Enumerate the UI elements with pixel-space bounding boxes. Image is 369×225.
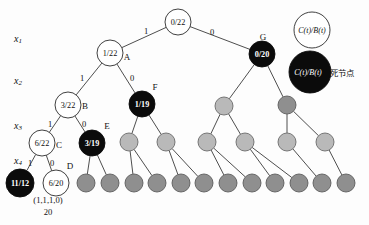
axis-sub-1: 1 bbox=[18, 37, 22, 45]
tree-node-G[interactable]: 0/20 bbox=[249, 41, 275, 67]
edge-g2a-g3c bbox=[211, 114, 220, 134]
tree-node-g3c[interactable] bbox=[198, 133, 216, 151]
edge-label-root-G: 0 bbox=[210, 27, 214, 37]
node-circle-l1[interactable] bbox=[77, 174, 95, 192]
tree-node-B[interactable]: 3/22 bbox=[55, 92, 81, 118]
node-circle-l8[interactable] bbox=[243, 174, 261, 192]
tree-node-A[interactable]: 1/22 bbox=[97, 40, 123, 66]
edge-label-C-H: 1 bbox=[28, 158, 32, 168]
node-circle-g3a[interactable] bbox=[120, 133, 138, 151]
node-circle-l2[interactable] bbox=[101, 174, 119, 192]
search-tree-diagram: 10101010 0/221/220/203/221/196/223/1911/… bbox=[0, 0, 369, 225]
edge-E-l2 bbox=[97, 155, 106, 175]
tree-node-C[interactable]: 6/22 bbox=[29, 130, 55, 156]
tree-node-D[interactable]: 6/20 bbox=[43, 170, 69, 196]
edge-g3e-l11 bbox=[293, 149, 316, 176]
node-circle-g2b[interactable] bbox=[278, 96, 296, 114]
node-circle-l12[interactable] bbox=[337, 174, 355, 192]
node-circle-g3d[interactable] bbox=[236, 133, 254, 151]
edge-g3d-l10 bbox=[252, 147, 292, 177]
legend-layer: C(t)/B(t)C(t)/B(t)死节点 bbox=[289, 12, 354, 93]
axis-label-x1: x1 bbox=[13, 33, 22, 45]
node-tag-G: G bbox=[260, 32, 267, 42]
node-label-A: 1/22 bbox=[103, 49, 118, 58]
edge-label-B-E: 0 bbox=[82, 119, 86, 129]
node-label-H: 11/12 bbox=[11, 179, 29, 188]
tree-node-l11[interactable] bbox=[313, 174, 331, 192]
edge-g3a-l4 bbox=[134, 149, 152, 175]
tree-node-F[interactable]: 1/19 bbox=[129, 91, 155, 117]
edge-label-A-B: 1 bbox=[80, 73, 84, 83]
caption-layer: (1,1,1,0)20 bbox=[33, 195, 62, 217]
node-label-C: 6/22 bbox=[35, 139, 50, 148]
edge-F-g3a bbox=[132, 116, 138, 133]
tree-node-g3d[interactable] bbox=[236, 133, 254, 151]
tree-node-l1[interactable] bbox=[77, 174, 95, 192]
tree-node-E[interactable]: 3/19 bbox=[79, 130, 105, 156]
edge-root-G bbox=[190, 27, 250, 50]
axis-sub-4: 4 bbox=[18, 159, 22, 167]
node-circle-l5[interactable] bbox=[172, 174, 190, 192]
caption-line-1: 20 bbox=[44, 207, 53, 217]
edge-g2b-g3f bbox=[293, 111, 318, 135]
node-circle-l10[interactable] bbox=[290, 174, 308, 192]
node-label-F: 1/19 bbox=[135, 100, 150, 109]
tree-node-g2a[interactable] bbox=[215, 97, 233, 115]
tree-node-g2b[interactable] bbox=[278, 96, 296, 114]
edge-g3a-l3 bbox=[130, 151, 133, 174]
tree-node-l3[interactable] bbox=[125, 174, 143, 192]
legend-dead-node-suffix: 死节点 bbox=[330, 68, 354, 78]
legend-live-node-label: C(t)/B(t) bbox=[298, 26, 326, 35]
node-circle-g3f[interactable] bbox=[316, 133, 334, 151]
edge-g3c-l8 bbox=[214, 148, 246, 177]
node-tag-A: A bbox=[124, 52, 131, 62]
edge-G-g2a bbox=[229, 64, 254, 98]
node-circle-g3c[interactable] bbox=[198, 133, 216, 151]
tree-node-g3e[interactable] bbox=[278, 133, 296, 151]
tree-node-l7[interactable] bbox=[219, 174, 237, 192]
tree-node-l10[interactable] bbox=[290, 174, 308, 192]
axis-label-layer: x1x2x3x4 bbox=[13, 33, 22, 167]
node-circle-l3[interactable] bbox=[125, 174, 143, 192]
node-tag-B: B bbox=[82, 101, 88, 111]
tree-node-l8[interactable] bbox=[243, 174, 261, 192]
node-circle-l11[interactable] bbox=[313, 174, 331, 192]
legend-dead-node: C(t)/B(t)死节点 bbox=[289, 51, 354, 93]
edge-label-B-C: 1 bbox=[48, 119, 52, 129]
legend-dead-node-label: C(t)/B(t) bbox=[294, 68, 322, 77]
node-tag-E: E bbox=[104, 121, 110, 131]
edge-label-root-A: 1 bbox=[144, 26, 148, 36]
axis-label-x4: x4 bbox=[13, 155, 22, 167]
node-tag-C: C bbox=[56, 140, 62, 150]
edge-g3c-l7 bbox=[211, 150, 224, 175]
tree-node-l12[interactable] bbox=[337, 174, 355, 192]
tree-node-H[interactable]: 11/12 bbox=[6, 169, 34, 197]
node-label-root: 0/22 bbox=[171, 18, 186, 27]
axis-label-x3: x3 bbox=[13, 120, 22, 132]
tree-node-root[interactable]: 0/22 bbox=[165, 9, 191, 35]
node-circle-l7[interactable] bbox=[219, 174, 237, 192]
tree-node-g3a[interactable] bbox=[120, 133, 138, 151]
edge-F-g3b bbox=[149, 115, 161, 134]
edge-E-l1 bbox=[87, 156, 90, 174]
edge-label-A-F: 0 bbox=[130, 73, 134, 83]
node-circle-g3e[interactable] bbox=[278, 133, 296, 151]
tree-node-l5[interactable] bbox=[172, 174, 190, 192]
edge-g2a-g3d bbox=[229, 114, 241, 134]
tree-node-g3f[interactable] bbox=[316, 133, 334, 151]
node-circle-l9[interactable] bbox=[266, 174, 284, 192]
node-circle-g2a[interactable] bbox=[215, 97, 233, 115]
node-circle-l6[interactable] bbox=[195, 174, 213, 192]
tree-node-l2[interactable] bbox=[101, 174, 119, 192]
tree-node-g3b[interactable] bbox=[157, 133, 175, 151]
tree-node-l9[interactable] bbox=[266, 174, 284, 192]
tree-node-l4[interactable] bbox=[148, 174, 166, 192]
tree-node-l6[interactable] bbox=[195, 174, 213, 192]
edge-G-g2b bbox=[268, 66, 283, 97]
node-circle-l4[interactable] bbox=[148, 174, 166, 192]
legend-live-node: C(t)/B(t) bbox=[294, 12, 330, 48]
axis-sub-2: 2 bbox=[18, 79, 22, 87]
node-circle-g3b[interactable] bbox=[157, 133, 175, 151]
node-label-D: 6/20 bbox=[49, 179, 64, 188]
node-tag-F: F bbox=[152, 82, 157, 92]
